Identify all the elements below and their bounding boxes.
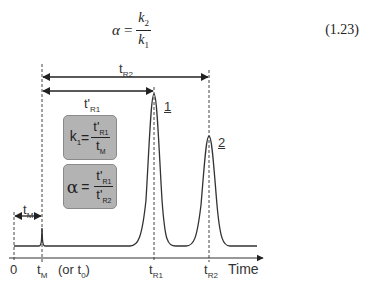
k1-symbol: k1 bbox=[70, 128, 81, 147]
tpR1-label: t'R1 bbox=[84, 97, 100, 114]
chromatogram-diagram bbox=[0, 0, 371, 290]
axis-tM-label: tM bbox=[37, 263, 47, 280]
equals-sign: = bbox=[81, 130, 89, 146]
axis-tR2-label: tR2 bbox=[204, 263, 218, 280]
tR2-label: tR2 bbox=[119, 62, 133, 79]
axis-zero-label: 0 bbox=[10, 263, 17, 276]
tM-label: tM bbox=[23, 203, 33, 220]
axis-or-t0-label: (or t0) bbox=[58, 263, 90, 280]
k1-fraction: t'R1 tM bbox=[91, 120, 110, 154]
axis-tR1-label: tR1 bbox=[149, 263, 163, 280]
equals-sign: = bbox=[81, 179, 89, 195]
axis-time-label: Time bbox=[228, 262, 259, 276]
alpha-fraction: t'R1 t'R2 bbox=[94, 169, 113, 203]
chromatogram-trace bbox=[14, 94, 257, 246]
peak-2-label: 2 bbox=[218, 136, 225, 149]
alpha-formula-box: α = t'R1 t'R2 bbox=[63, 164, 117, 209]
alpha-symbol: α bbox=[67, 177, 78, 197]
peak-1-label: 1 bbox=[164, 100, 171, 113]
k1-formula-box: k1 = t'R1 tM bbox=[63, 115, 117, 160]
